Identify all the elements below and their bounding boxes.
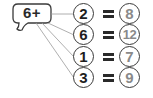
equals-sign-3	[103, 52, 114, 61]
result-circle-2: 12	[119, 24, 140, 45]
operand-circle-1: 2	[73, 3, 94, 24]
equals-sign-2	[103, 30, 114, 39]
result-circle-1: 8	[119, 3, 140, 24]
operand-circle-3: 1	[73, 46, 94, 67]
result-circle-4: 9	[119, 67, 140, 88]
addition-worksheet: 6+ 2 8 6 12 1 7 3 9	[0, 0, 153, 98]
result-circle-3: 7	[119, 46, 140, 67]
connector-line-3	[42, 23, 74, 57]
operand-circle-4: 3	[73, 67, 94, 88]
equals-sign-1	[103, 9, 114, 18]
bubble-label: 6+	[14, 3, 50, 23]
operand-circle-2: 6	[73, 24, 94, 45]
equals-sign-4	[103, 73, 114, 82]
